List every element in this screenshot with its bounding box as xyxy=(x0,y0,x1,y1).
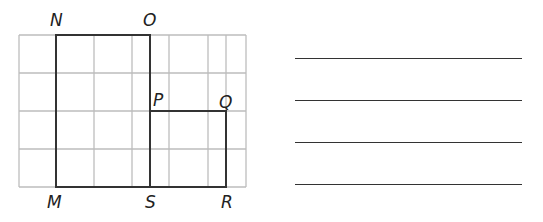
vertex-label-m: M xyxy=(47,192,62,212)
answer-line-1[interactable] xyxy=(295,58,522,59)
vertex-label-n: N xyxy=(50,10,63,30)
answer-line-3[interactable] xyxy=(295,142,522,143)
vertex-label-r: R xyxy=(221,192,233,212)
vertex-label-o: O xyxy=(143,10,156,30)
vertex-label-p: P xyxy=(153,90,164,110)
grid-figure: NOPQMSR xyxy=(0,0,543,222)
vertex-label-s: S xyxy=(145,192,156,212)
vertex-label-q: Q xyxy=(219,92,232,112)
answer-line-2[interactable] xyxy=(295,100,522,101)
answer-line-4[interactable] xyxy=(295,184,522,185)
